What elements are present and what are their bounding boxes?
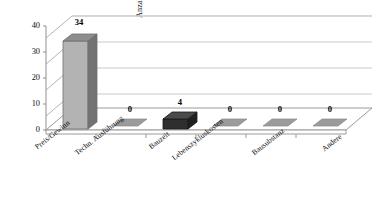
bar-value-preis-gewinn: 34 (66, 17, 92, 27)
bar-value-andere: 0 (317, 104, 343, 114)
bar-bauzeit (163, 112, 197, 129)
bar-preis-gewinn (63, 34, 97, 129)
bar-value-techn-ausfuehrung: 0 (117, 104, 143, 114)
y-tick-label-30: 30 (22, 47, 40, 56)
chart-container: Anzahl der Antworten (0, 0, 382, 214)
bar-value-bauzeit: 4 (167, 97, 193, 107)
y-tick-label-40: 40 (22, 21, 40, 30)
y-tick-label-10: 10 (22, 99, 40, 108)
bar-value-bausubstanz: 0 (267, 104, 293, 114)
y-tick-label-20: 20 (22, 73, 40, 82)
y-tick-label-0: 0 (22, 125, 40, 134)
bar-value-lebenszykluskosten: 0 (217, 104, 243, 114)
plot-area: 40 30 20 10 0 34 0 4 0 0 0 Preis/Gewinn … (0, 0, 382, 214)
